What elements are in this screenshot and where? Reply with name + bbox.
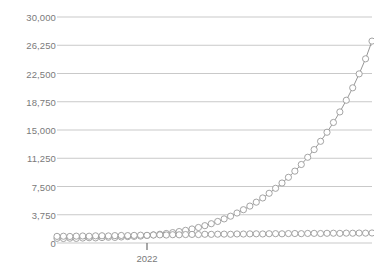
- data-point-marker: [260, 195, 266, 201]
- data-point-marker: [272, 231, 278, 237]
- data-point-marker: [208, 231, 214, 237]
- data-point-marker: [305, 154, 311, 160]
- y-tick-label-7500: 7,500: [32, 181, 56, 192]
- data-point-marker: [362, 230, 368, 236]
- data-point-marker: [176, 232, 182, 238]
- data-point-marker: [137, 232, 143, 238]
- data-point-marker: [131, 232, 137, 238]
- data-point-marker: [343, 97, 349, 103]
- data-point-marker: [298, 231, 304, 237]
- series-line: [57, 41, 372, 238]
- data-point-marker: [330, 230, 336, 236]
- data-point-marker: [157, 232, 163, 238]
- data-point-marker: [330, 119, 336, 125]
- y-tick-label-26250: 26,250: [26, 40, 56, 51]
- data-point-marker: [311, 146, 317, 152]
- data-point-marker: [292, 230, 298, 236]
- data-point-marker: [60, 233, 66, 239]
- data-point-marker: [163, 232, 169, 238]
- series-flat-series: [54, 230, 374, 240]
- data-point-marker: [189, 231, 195, 237]
- y-tick-label-15000: 15,000: [26, 125, 56, 136]
- data-point-marker: [247, 231, 253, 237]
- data-point-marker: [195, 224, 201, 230]
- data-point-marker: [285, 174, 291, 180]
- y-tick-label-3750: 3,750: [32, 209, 56, 220]
- data-point-marker: [240, 231, 246, 237]
- data-point-marker: [227, 231, 233, 237]
- data-point-marker: [195, 231, 201, 237]
- y-tick-label-11250: 11,250: [27, 153, 56, 164]
- data-point-marker: [317, 230, 323, 236]
- data-point-marker: [369, 38, 374, 44]
- data-point-marker: [234, 231, 240, 237]
- data-point-marker: [279, 180, 285, 186]
- y-tick-label-22500: 22,500: [26, 68, 56, 79]
- data-point-marker: [356, 71, 362, 77]
- data-point-marker: [99, 233, 105, 239]
- data-point-marker: [118, 232, 124, 238]
- data-point-marker: [150, 232, 156, 238]
- data-point-marker: [369, 230, 374, 236]
- data-point-marker: [227, 213, 233, 219]
- data-point-marker: [350, 85, 356, 91]
- data-point-marker: [324, 230, 330, 236]
- data-point-marker: [86, 233, 92, 239]
- data-point-marker: [202, 223, 208, 229]
- data-point-marker: [362, 56, 368, 62]
- data-point-marker: [144, 232, 150, 238]
- y-tick-label-18750: 18,750: [26, 96, 56, 107]
- data-point-marker: [92, 233, 98, 239]
- chart-plot-area: [0, 0, 374, 267]
- data-point-marker: [298, 161, 304, 167]
- data-point-marker: [215, 218, 221, 224]
- data-point-marker: [279, 231, 285, 237]
- data-point-marker: [221, 216, 227, 222]
- data-point-marker: [266, 231, 272, 237]
- data-point-marker: [337, 230, 343, 236]
- data-point-marker: [266, 190, 272, 196]
- data-point-marker: [208, 221, 214, 227]
- data-point-marker: [202, 231, 208, 237]
- data-point-marker: [215, 231, 221, 237]
- data-point-marker: [253, 231, 259, 237]
- data-point-marker: [125, 233, 131, 239]
- data-point-marker: [292, 168, 298, 174]
- data-point-marker: [221, 231, 227, 237]
- data-point-marker: [272, 185, 278, 191]
- data-point-marker: [343, 230, 349, 236]
- data-point-marker: [73, 233, 79, 239]
- data-point-marker: [337, 109, 343, 115]
- data-point-marker: [356, 230, 362, 236]
- series-exponential-series: [54, 38, 374, 242]
- y-tick-label-0: 0: [51, 238, 56, 249]
- data-point-marker: [317, 138, 323, 144]
- data-point-marker: [234, 210, 240, 216]
- data-point-marker: [80, 233, 86, 239]
- y-tick-label-30000: 30,000: [26, 12, 56, 23]
- data-point-marker: [112, 233, 118, 239]
- data-point-marker: [182, 231, 188, 237]
- data-point-marker: [324, 129, 330, 135]
- data-point-marker: [285, 230, 291, 236]
- data-point-marker: [105, 233, 111, 239]
- x-tick-label-2022: 2022: [136, 253, 157, 264]
- data-point-marker: [247, 203, 253, 209]
- data-point-marker: [253, 199, 259, 205]
- data-point-marker: [311, 230, 317, 236]
- data-point-marker: [170, 232, 176, 238]
- data-point-marker: [67, 233, 73, 239]
- data-point-marker: [240, 207, 246, 213]
- data-point-marker: [305, 230, 311, 236]
- data-point-marker: [260, 231, 266, 237]
- data-point-marker: [350, 230, 356, 236]
- chart-container: 03,7507,50011,25015,00018,75022,50026,25…: [0, 0, 374, 267]
